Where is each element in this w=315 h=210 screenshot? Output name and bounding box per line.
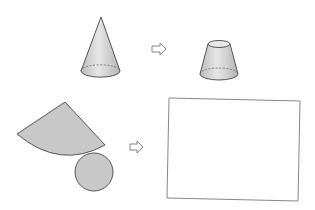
circle-net-shape [75, 153, 113, 191]
answer-box [167, 98, 300, 201]
cone-shape [81, 17, 120, 77]
sector-net-shape [17, 102, 105, 155]
arrow-right-icon [130, 141, 143, 153]
frustum-shape [200, 41, 238, 81]
arrow-right-icon [152, 43, 166, 55]
